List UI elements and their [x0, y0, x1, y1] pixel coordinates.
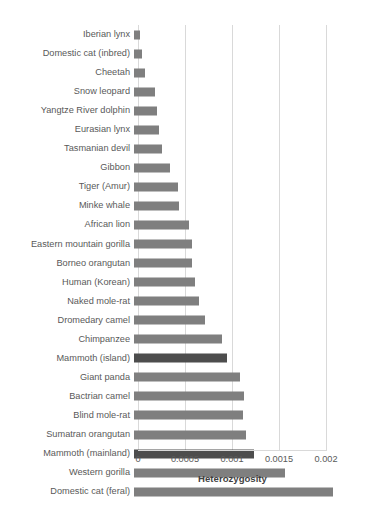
bar[interactable]: [134, 49, 142, 58]
bar-row: Tiger (Amur): [0, 177, 366, 196]
bar-track: [134, 482, 366, 501]
bar[interactable]: [134, 144, 162, 153]
category-label: Eastern mountain gorilla: [0, 239, 134, 250]
bar-track: [134, 82, 366, 101]
bar-track: [134, 25, 366, 44]
bar[interactable]: [134, 125, 159, 134]
category-label: Domestic cat (inbred): [0, 48, 134, 59]
category-label: Eurasian lynx: [0, 124, 134, 135]
bar-track: [134, 101, 366, 120]
bar-row: Human (Korean): [0, 273, 366, 292]
bar[interactable]: [134, 182, 178, 191]
category-label: Giant panda: [0, 372, 134, 383]
bar-track: [134, 311, 366, 330]
bar-track: [134, 273, 366, 292]
bar[interactable]: [134, 106, 157, 115]
category-label: Borneo orangutan: [0, 258, 134, 269]
category-label: Mammoth (island): [0, 353, 134, 364]
x-axis-title: Heterozygosity: [138, 473, 327, 484]
bar-track: [134, 254, 366, 273]
category-label: Sumatran orangutan: [0, 429, 134, 440]
category-label: Human (Korean): [0, 277, 134, 288]
category-label: Snow leopard: [0, 86, 134, 97]
bar-row: Gibbon: [0, 158, 366, 177]
heterozygosity-bar-chart: Iberian lynxDomestic cat (inbred)Cheetah…: [0, 0, 366, 507]
bar[interactable]: [134, 392, 244, 401]
bar[interactable]: [134, 240, 192, 249]
bar-track: [134, 63, 366, 82]
x-tick-label: 0.001: [221, 453, 244, 465]
bar-row: Chimpanzee: [0, 330, 366, 349]
bar[interactable]: [134, 411, 243, 420]
bar[interactable]: [134, 316, 205, 325]
bar-track: [134, 139, 366, 158]
bar-track: [134, 158, 366, 177]
bar-track: [134, 235, 366, 254]
x-axis-line: [138, 450, 327, 451]
bar-row: Cheetah: [0, 63, 366, 82]
bar-track: [134, 215, 366, 234]
category-label: Yangtze River dolphin: [0, 105, 134, 116]
category-label: Cheetah: [0, 67, 134, 78]
bar[interactable]: [134, 259, 192, 268]
bar-row: Eurasian lynx: [0, 120, 366, 139]
category-label: Dromedary camel: [0, 315, 134, 326]
bar-track: [134, 44, 366, 63]
category-label: Bactrian camel: [0, 391, 134, 402]
bar-row: Naked mole-rat: [0, 292, 366, 311]
bar[interactable]: [134, 335, 222, 344]
bar-row: Yangtze River dolphin: [0, 101, 366, 120]
bar-track: [134, 425, 366, 444]
bar-track: [134, 330, 366, 349]
category-label: Minke whale: [0, 200, 134, 211]
bar-row: Giant panda: [0, 368, 366, 387]
bar-row: Domestic cat (feral): [0, 482, 366, 501]
category-label: Blind mole-rat: [0, 410, 134, 421]
category-label: Western gorilla: [0, 467, 134, 478]
bar-track: [134, 368, 366, 387]
bar-row: Sumatran orangutan: [0, 425, 366, 444]
category-label: Naked mole-rat: [0, 296, 134, 307]
bar-row: Borneo orangutan: [0, 254, 366, 273]
x-tick-label: 0.0005: [171, 453, 199, 465]
bar-track: [134, 196, 366, 215]
bar[interactable]: [134, 220, 189, 229]
bar[interactable]: [134, 430, 246, 439]
category-label: Tiger (Amur): [0, 181, 134, 192]
bar-row: Tasmanian devil: [0, 139, 366, 158]
bar-track: [134, 406, 366, 425]
bar-row: African lion: [0, 215, 366, 234]
bar-row: Blind mole-rat: [0, 406, 366, 425]
bar[interactable]: [134, 373, 240, 382]
bar-highlighted[interactable]: [134, 354, 227, 363]
category-label: Domestic cat (feral): [0, 486, 134, 497]
bar[interactable]: [134, 30, 140, 39]
category-label: Iberian lynx: [0, 29, 134, 40]
bar-row: Minke whale: [0, 196, 366, 215]
bar[interactable]: [134, 68, 145, 77]
bar-track: [134, 177, 366, 196]
bar-row: Mammoth (island): [0, 349, 366, 368]
bar[interactable]: [134, 297, 199, 306]
x-axis-ticks: 00.00050.0010.00150.002: [0, 453, 366, 467]
bar-row: Dromedary camel: [0, 311, 366, 330]
bar-row: Eastern mountain gorilla: [0, 235, 366, 254]
bar-track: [134, 292, 366, 311]
category-label: Chimpanzee: [0, 334, 134, 345]
bar[interactable]: [134, 278, 195, 287]
bar-track: [134, 387, 366, 406]
bar[interactable]: [134, 163, 170, 172]
bar[interactable]: [134, 487, 333, 496]
bar-row: Snow leopard: [0, 82, 366, 101]
bar-row: Domestic cat (inbred): [0, 44, 366, 63]
category-label: Gibbon: [0, 162, 134, 173]
bar-track: [134, 349, 366, 368]
category-label: Tasmanian devil: [0, 143, 134, 154]
bar-row: Bactrian camel: [0, 387, 366, 406]
bar[interactable]: [134, 87, 155, 96]
x-tick-label: 0.0015: [265, 453, 293, 465]
bar-track: [134, 120, 366, 139]
bar-row: Iberian lynx: [0, 25, 366, 44]
x-tick-label: 0: [135, 453, 140, 465]
bar[interactable]: [134, 201, 179, 210]
